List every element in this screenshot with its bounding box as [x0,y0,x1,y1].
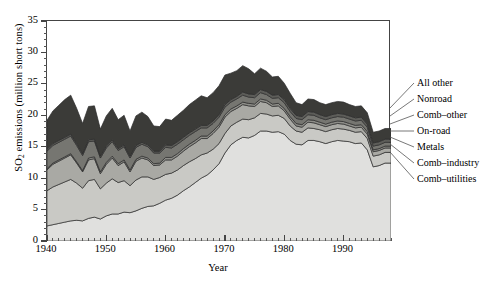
x-axis-tick-label: 1940 [26,244,66,255]
x-axis-minor-tick [236,238,237,242]
y-axis-tick-label: 10 [14,172,38,183]
x-axis-minor-tick [171,238,172,242]
y-axis-minor-tick [44,109,48,110]
x-axis-minor-tick [260,238,261,242]
y-axis-minor-tick [44,121,48,122]
y-axis-minor-tick [44,184,48,185]
x-axis-minor-tick [367,238,368,242]
x-axis-minor-tick [153,238,154,242]
x-axis-minor-tick [325,238,326,242]
x-axis-tick-label: 1970 [204,244,244,255]
x-axis-minor-tick [76,238,77,242]
y-axis-minor-tick [44,165,48,166]
y-axis-tick [41,20,47,21]
y-axis-title-pre: SO [13,158,24,172]
x-axis-tick-label: 1980 [263,244,303,255]
y-axis-title-subscript: 2 [17,154,26,158]
x-axis-minor-tick [112,238,113,242]
x-axis-minor-tick [391,238,392,242]
legend-item-label: Metals [417,142,444,152]
y-axis-minor-tick [44,159,48,160]
legend-item-label: Nonroad [417,94,452,104]
y-axis-minor-tick [44,134,48,135]
y-axis-minor-tick [44,153,48,154]
y-axis-tick-label: 30 [14,46,38,57]
y-axis-minor-tick [44,65,48,66]
y-axis-tick [41,52,47,53]
y-axis-minor-tick [44,96,48,97]
x-axis-minor-tick [242,238,243,242]
x-axis-minor-tick [195,238,196,242]
x-axis-minor-tick [64,238,65,242]
x-axis-minor-tick [159,238,160,242]
x-axis-minor-tick [219,238,220,242]
x-axis-tick-label: 1950 [85,244,125,255]
legend-leader-line [390,83,414,108]
legend-leader-line [390,144,414,163]
x-axis-tick-label: 1960 [145,244,185,255]
x-axis-minor-tick [313,238,314,242]
x-axis-tick [284,235,285,241]
x-axis-minor-tick [118,238,119,242]
x-axis-minor-tick [230,238,231,242]
x-axis-minor-tick [254,238,255,242]
y-axis-minor-tick [44,71,48,72]
y-axis-minor-tick [44,33,48,34]
y-axis-minor-tick [44,90,48,91]
y-axis-tick-label: 25 [14,77,38,88]
legend-item-label: All other [417,78,453,88]
y-axis-minor-tick [44,203,48,204]
x-axis-minor-tick [307,238,308,242]
y-axis-title-post: emissions (million short tons) [13,23,24,154]
legend-item-label: On-road [417,126,450,136]
x-axis-minor-tick [337,238,338,242]
y-axis-minor-tick [44,46,48,47]
x-axis-minor-tick [100,238,101,242]
y-axis-minor-tick [44,215,48,216]
x-axis-minor-tick [52,238,53,242]
chart-figure: SO2 emissions (million short tons) Year … [0,0,496,289]
legend-leader-line [390,99,414,116]
x-axis-minor-tick [70,238,71,242]
x-axis-tick [46,235,47,241]
x-axis-minor-tick [94,238,95,242]
legend-leader-line [390,137,414,147]
y-axis-tick-label: 5 [14,203,38,214]
y-axis-tick-label: 35 [14,15,38,26]
x-axis-minor-tick [319,238,320,242]
y-axis-minor-tick [44,27,48,28]
x-axis-minor-tick [183,238,184,242]
y-axis-tick [41,115,47,116]
legend-leader-line [390,115,414,124]
x-axis-tick [106,235,107,241]
y-axis-minor-tick [44,171,48,172]
x-axis-minor-tick [355,238,356,242]
x-axis-minor-tick [88,238,89,242]
x-axis-title: Year [46,262,390,273]
y-axis-tick-label: 15 [14,140,38,151]
x-axis-minor-tick [213,238,214,242]
y-axis-minor-tick [44,58,48,59]
x-axis-minor-tick [177,238,178,242]
x-axis-minor-tick [296,238,297,242]
x-axis-minor-tick [379,238,380,242]
y-axis-tick [41,146,47,147]
legend-item-label: Comb–utilities [417,174,476,184]
legend-item-label: Comb–other [417,110,467,120]
y-axis-tick [41,209,47,210]
area-series-group [47,66,391,241]
y-axis-minor-tick [44,39,48,40]
x-axis-minor-tick [147,238,148,242]
y-axis-minor-tick [44,102,48,103]
x-axis-minor-tick [331,238,332,242]
x-axis-minor-tick [361,238,362,242]
x-axis-minor-tick [207,238,208,242]
y-axis-minor-tick [44,197,48,198]
plot-area [46,20,390,240]
x-axis-minor-tick [290,238,291,242]
y-axis-minor-tick [44,190,48,191]
x-axis-tick [224,235,225,241]
x-axis-minor-tick [189,238,190,242]
x-axis-minor-tick [266,238,267,242]
stacked-area-plot [47,21,391,241]
